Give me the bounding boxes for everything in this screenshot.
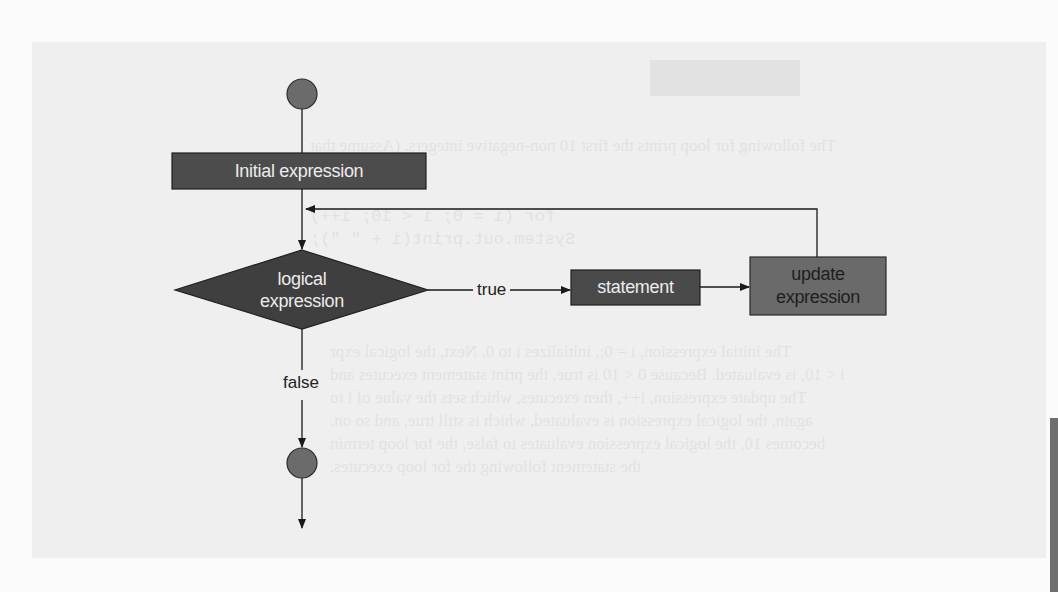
- textbook-page: The following for loop prints the first …: [0, 0, 1058, 592]
- false-label: false: [279, 373, 323, 393]
- edge-update-loopback: [306, 209, 817, 257]
- statement-label: statement: [571, 270, 700, 305]
- true-label: true: [473, 280, 510, 300]
- flowchart: [0, 0, 1058, 592]
- logical-expression-label: logical expression: [222, 258, 382, 322]
- update-expression-line2: expression: [776, 286, 860, 309]
- logical-expression-line1: logical: [278, 268, 327, 290]
- logical-expression-line2: expression: [260, 290, 344, 312]
- end-node-icon: [287, 448, 317, 478]
- update-expression-label: update expression: [750, 257, 886, 315]
- initial-expression-label: Initial expression: [172, 153, 426, 189]
- start-node-icon: [287, 79, 317, 109]
- update-expression-line1: update: [791, 263, 844, 286]
